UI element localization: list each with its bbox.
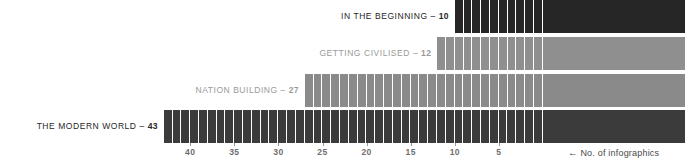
bar-label-text: GETTING CIVILISED [319,48,410,58]
bar-solid-plate [543,110,685,143]
bar-segment [349,74,358,107]
bar-row: NATION BUILDING – 27 [0,74,685,107]
left-arrow-icon: ← [568,147,578,158]
bar[interactable] [164,110,685,143]
bar-segment [507,110,516,143]
bar-segment [366,110,375,143]
bar-segment [331,110,340,143]
axis-tick-mark [367,143,368,146]
bar-segment [375,110,384,143]
bar-segment [296,110,305,143]
bar-segment [446,37,455,70]
axis-tick-mark [455,143,456,146]
bar-value: 43 [148,121,158,131]
bar-segment [411,74,420,107]
bar-segment [419,74,428,107]
bar-segment [305,110,314,143]
bar-segment [472,110,481,143]
bar-segment [278,110,287,143]
bar-segment [472,0,481,33]
bar-segment [525,74,534,107]
bar-solid-plate [543,37,685,70]
bar-segment [199,110,208,143]
bar-segment [322,74,331,107]
bar-segment [499,110,508,143]
bar-segment [516,110,525,143]
axis-tick-label: 30 [273,147,283,157]
axis-tick-mark [323,143,324,146]
axis-tick-mark [278,143,279,146]
axis-caption-label: No. of infographics [580,148,659,158]
bar-segment [358,110,367,143]
bar-segment [217,110,226,143]
bar-label-separator: – [278,85,289,95]
bar-label-separator: – [410,48,421,58]
bar-segment [367,74,376,107]
axis-tick-label: 25 [317,147,327,157]
bar-segment [261,110,270,143]
bar-label: GETTING CIVILISED – 12 [319,37,431,70]
bar-segment [525,110,534,143]
bar-segment [516,0,525,33]
bar-segment [358,74,367,107]
bar-segment [340,110,349,143]
bar-segment [463,74,472,107]
bar-segment [402,74,411,107]
bar-segment [322,110,331,143]
bar-segment [190,110,199,143]
bar-segment [463,110,472,143]
bar-segment [534,37,543,70]
bar-segment [534,110,543,143]
bar-label: IN THE BEGINNING – 10 [341,0,449,33]
bar-segment [464,0,473,33]
bar-segments [437,37,543,70]
bar-segment [384,74,393,107]
bar-row: IN THE BEGINNING – 10 [0,0,685,33]
bar-segment [455,37,464,70]
bar-segment [508,74,517,107]
bar-segment [340,74,349,107]
bar-segment [243,110,252,143]
bar-segment [234,110,243,143]
bar-segment [481,74,490,107]
bar[interactable] [305,74,685,107]
bar-segment [472,37,481,70]
axis-tick-mark [411,143,412,146]
bar-segment [164,110,173,143]
bar-segment [525,0,534,33]
bar-segment [393,74,402,107]
bar-label-text: THE MODERN WORLD [37,121,137,131]
bar[interactable] [437,37,685,70]
bar-segment [437,110,446,143]
bar-label-separator: – [137,121,148,131]
bar-segment [499,74,508,107]
bar-segment [375,74,384,107]
bar-segment [428,74,437,107]
bar-segment [208,110,217,143]
bar-value: 10 [439,11,449,21]
bar-segment [534,0,543,33]
bar-segment [499,0,508,33]
bar-segment [393,110,402,143]
bar-segment [481,0,490,33]
bar-segment [305,74,314,107]
bar[interactable] [455,0,685,33]
bar-segment [428,110,437,143]
bar-label: NATION BUILDING – 27 [195,74,298,107]
bar-label-text: NATION BUILDING [195,85,277,95]
bar-segment [287,110,296,143]
bar-segment [534,74,543,107]
bar-segment [455,110,464,143]
bar-value: 12 [421,48,431,58]
bar-segment [314,110,323,143]
bar-segment [349,110,358,143]
axis-tick-label: 10 [450,147,460,157]
chart-x-axis: 403530252015105 ← No. of infographics [0,143,685,167]
bar-segments [305,74,543,107]
bar-segment [481,110,490,143]
bar-segment [437,37,446,70]
bar-segment [508,37,517,70]
axis-tick-label: 15 [406,147,416,157]
axis-caption: ← No. of infographics [568,147,659,158]
axis-tick-mark [499,143,500,146]
